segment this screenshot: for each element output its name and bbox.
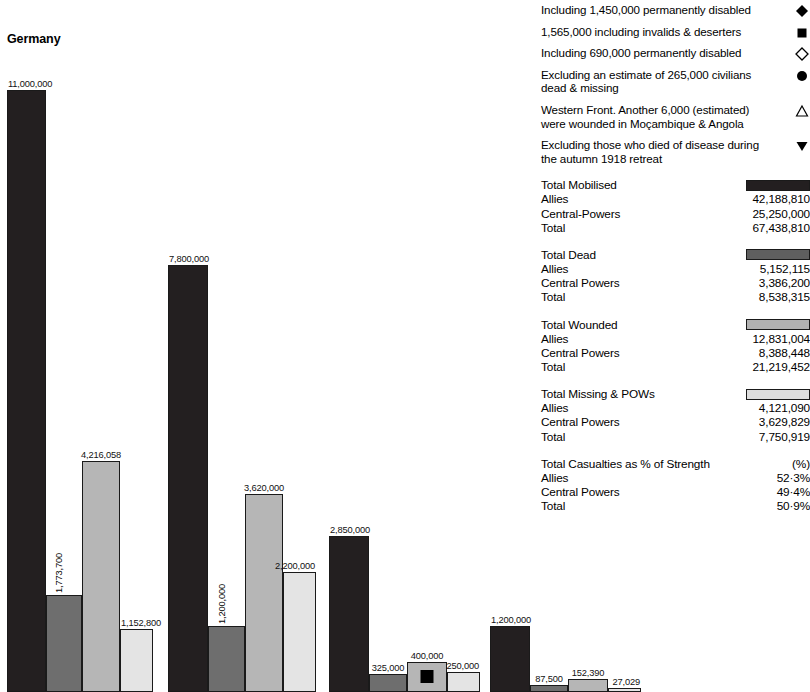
bar-value-label: 325,000 bbox=[372, 663, 405, 673]
bar-wrap-missing: 250,000 bbox=[447, 525, 480, 692]
bar-total-missing-pows[interactable]: 1,152,800 bbox=[120, 629, 153, 692]
bar-total-dead[interactable]: 325,000 bbox=[369, 674, 407, 692]
stat-row-label: Total bbox=[541, 430, 565, 444]
bar-wrap-dead: 325,000 bbox=[369, 525, 407, 692]
stat-block-total-wounded: Total Wounded Allies 12,831,004 Central … bbox=[541, 318, 810, 375]
country-group-turkey: Turkey 2,850,000 325,000 400,000 bbox=[329, 32, 480, 692]
stat-row-label: Central Powers bbox=[541, 415, 620, 429]
bar-total-mobilised[interactable]: 1,200,000 bbox=[490, 626, 530, 692]
filled-square-marker-icon bbox=[421, 670, 434, 683]
bar-wrap-missing: 2,200,000 bbox=[283, 242, 316, 692]
stat-row-label: Total bbox=[541, 360, 565, 374]
bar-total-missing-pows[interactable]: 250,000 bbox=[447, 672, 480, 692]
bar-chart: Germany 11,000,000 1,773,700 4,216,058 bbox=[0, 0, 530, 692]
stat-row: Total 50·9% bbox=[541, 499, 810, 513]
bar-wrap-wounded: 400,000 bbox=[407, 525, 447, 692]
footnote-item: Excluding those who died of disease duri… bbox=[541, 138, 810, 165]
stat-row: Allies 42,188,810 bbox=[541, 192, 810, 206]
stat-block-casualties-percent: Total Casualties as % of Strength (%) Al… bbox=[541, 457, 810, 514]
bar-total-dead[interactable]: 1,773,700 bbox=[46, 595, 82, 692]
bar-total-dead[interactable]: 1,200,000 bbox=[208, 626, 245, 692]
series-swatch-total-wounded bbox=[746, 319, 810, 330]
bar-value-label: 4,216,058 bbox=[81, 450, 121, 460]
bar-value-label: 2,200,000 bbox=[275, 561, 315, 571]
hollow-diamond-icon bbox=[795, 47, 809, 61]
stat-row: Central Powers 3,386,200 bbox=[541, 276, 810, 290]
stat-row: Central Powers 3,629,829 bbox=[541, 415, 810, 429]
bar-wrap-wounded: 3,620,000 bbox=[245, 242, 283, 692]
stat-header: Total Casualties as % of Strength (%) bbox=[541, 457, 810, 471]
stat-row-value: 52·3% bbox=[777, 471, 810, 485]
stat-row-value: 3,629,829 bbox=[759, 415, 810, 429]
stat-row-label: Allies bbox=[541, 262, 568, 276]
footnotes-list: Including 1,450,000 permanently disabled… bbox=[541, 0, 810, 165]
bar-wrap-dead: 1,200,000 bbox=[208, 242, 245, 692]
stat-row-value: 25,250,000 bbox=[752, 207, 810, 221]
country-group-germany: Germany 11,000,000 1,773,700 4,216,058 bbox=[7, 32, 153, 692]
bar-total-mobilised[interactable]: 2,850,000 bbox=[329, 536, 369, 692]
filled-diamond-icon bbox=[795, 4, 809, 18]
bar-wrap-wounded: 4,216,058 bbox=[82, 58, 120, 692]
stat-row-value: 50·9% bbox=[777, 499, 810, 513]
bar-wrap-mobilised: 11,000,000 bbox=[7, 58, 46, 692]
stat-row-value: 4,121,090 bbox=[759, 401, 810, 415]
stat-row-label: Allies bbox=[541, 401, 568, 415]
stat-row-label: Total bbox=[541, 221, 565, 235]
series-swatch-total-dead bbox=[746, 249, 810, 260]
stat-row: Allies 4,121,090 bbox=[541, 401, 810, 415]
bar-value-label: 1,200,000 bbox=[491, 615, 531, 625]
bar-total-mobilised[interactable]: 11,000,000 bbox=[7, 90, 46, 692]
stat-row-value: 8,388,448 bbox=[759, 346, 810, 360]
stat-row-label: Allies bbox=[541, 332, 568, 346]
stat-row-value: 7,750,919 bbox=[759, 430, 810, 444]
bar-wrap-mobilised: 2,850,000 bbox=[329, 525, 369, 692]
bar-value-label: 1,200,000 bbox=[217, 584, 227, 624]
bar-wrap-mobilised: 7,800,000 bbox=[168, 242, 208, 692]
stat-row: Allies 12,831,004 bbox=[541, 332, 810, 346]
bar-wrap-mobilised: 1,200,000 bbox=[490, 612, 530, 692]
bar-total-wounded[interactable]: 400,000 bbox=[407, 662, 447, 692]
bar-value-label: 3,620,000 bbox=[244, 483, 284, 493]
filled-down-triangle-icon bbox=[795, 139, 809, 153]
stat-title: Total Casualties as % of Strength bbox=[541, 457, 710, 471]
footnote-item: Western Front. Another 6,000 (estimated)… bbox=[541, 103, 810, 130]
bar-value-label: 2,850,000 bbox=[330, 525, 370, 535]
stat-unit: (%) bbox=[792, 457, 810, 471]
stat-row: Total 67,438,810 bbox=[541, 221, 810, 235]
bar-total-missing-pows[interactable]: 2,200,000 bbox=[283, 572, 316, 692]
stat-row: Allies 5,152,115 bbox=[541, 262, 810, 276]
bar-value-label: 7,800,000 bbox=[169, 254, 209, 264]
stat-title: Total Dead bbox=[541, 248, 596, 262]
bars-row: 2,850,000 325,000 400,000 250,000 bbox=[329, 525, 480, 692]
stat-row-label: Central-Powers bbox=[541, 207, 620, 221]
stat-row: Total 8,538,315 bbox=[541, 290, 810, 304]
stat-row: Central Powers 8,388,448 bbox=[541, 346, 810, 360]
stat-row-value: 21,219,452 bbox=[752, 360, 810, 374]
stat-row-label: Total bbox=[541, 290, 565, 304]
stat-row: Total 7,750,919 bbox=[541, 430, 810, 444]
stat-header: Total Mobilised bbox=[541, 178, 810, 192]
stat-row-label: Allies bbox=[541, 192, 568, 206]
stat-block-total-missing-pows: Total Missing & POWs Allies 4,121,090 Ce… bbox=[541, 387, 810, 444]
footnote-text: 1,565,000 including invalids & deserters bbox=[541, 25, 769, 39]
footnote-item: 1,565,000 including invalids & deserters bbox=[541, 25, 810, 39]
filled-square-icon bbox=[795, 26, 809, 40]
stat-row-value: 42,188,810 bbox=[752, 192, 810, 206]
stat-row-label: Total bbox=[541, 499, 565, 513]
footnote-item: Excluding an estimate of 265,000 civilia… bbox=[541, 68, 810, 95]
summary-stats: Total Mobilised Allies 42,188,810 Centra… bbox=[541, 178, 810, 513]
stat-row-value: 67,438,810 bbox=[752, 221, 810, 235]
bar-value-label: 1,773,700 bbox=[54, 553, 64, 593]
stat-header: Total Dead bbox=[541, 248, 810, 262]
stat-row: Central-Powers 25,250,000 bbox=[541, 207, 810, 221]
series-swatch-total-mobilised bbox=[746, 180, 810, 191]
bar-total-wounded[interactable]: 4,216,058 bbox=[82, 461, 120, 692]
bar-total-wounded[interactable]: 3,620,000 bbox=[245, 494, 283, 692]
stat-row-value: 49·4% bbox=[777, 485, 810, 499]
stat-block-total-mobilised: Total Mobilised Allies 42,188,810 Centra… bbox=[541, 178, 810, 235]
filled-circle-icon bbox=[795, 69, 809, 83]
bar-total-mobilised[interactable]: 7,800,000 bbox=[168, 265, 208, 692]
stat-row-label: Allies bbox=[541, 471, 568, 485]
footnote-text: Excluding those who died of disease duri… bbox=[541, 138, 769, 165]
bar-value-label: 250,000 bbox=[446, 661, 479, 671]
